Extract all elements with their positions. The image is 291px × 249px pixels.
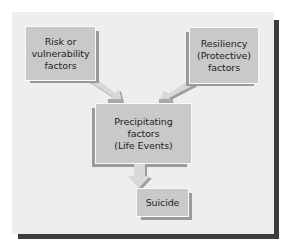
risk-box-shadow-bottom bbox=[30, 80, 99, 83]
suicide-box-shadow-bottom bbox=[141, 216, 192, 220]
precipitating-box-shadow-bottom-right bbox=[147, 163, 187, 167]
risk-box-shadow-right bbox=[95, 31, 99, 83]
risk-factors-box: Risk or vulnerability factors bbox=[26, 27, 95, 80]
suicide-label: Suicide bbox=[146, 197, 180, 209]
resiliency-factors-label: Resiliency (Protective) factors bbox=[197, 38, 251, 74]
precipitating-box-shadow-bottom-left bbox=[92, 163, 134, 167]
risk-factors-label: Risk or vulnerability factors bbox=[32, 36, 90, 72]
precipitating-factors-box: Precipitating factors (Life Events) bbox=[96, 104, 191, 163]
arrow-precipitating-to-suicide bbox=[128, 163, 152, 190]
resiliency-box-shadow-bottom bbox=[186, 83, 254, 86]
precipitating-factors-label: Precipitating factors (Life Events) bbox=[114, 116, 172, 152]
suicide-box: Suicide bbox=[137, 189, 188, 216]
resiliency-factors-box: Resiliency (Protective) factors bbox=[190, 28, 258, 83]
